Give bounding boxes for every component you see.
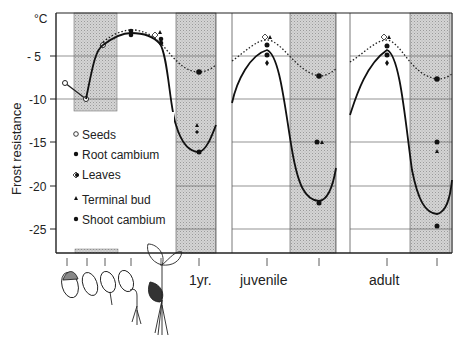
filled-circle-icon: [74, 217, 78, 221]
x-ticks: [67, 258, 437, 266]
seedling-illustrations: [59, 244, 182, 335]
legend-terminal-bud: Terminal bud: [82, 193, 151, 207]
seed-icon: [79, 270, 100, 297]
y-tick-label: -25: [29, 223, 47, 237]
x-label-juvenile: juvenile: [239, 272, 288, 288]
x-label-1yr: 1yr.: [189, 272, 212, 288]
x-label-adult: adult: [369, 272, 399, 288]
y-unit-label: °C: [34, 12, 48, 26]
legend-shoot-cambium: Shoot cambium: [82, 213, 165, 227]
frost-resistance-chart: °C - 5 -10 -15 -20 -25 Frost resistance: [0, 0, 471, 350]
y-axis-title: Frost resistance: [9, 103, 24, 195]
legend-root-cambium: Root cambium: [82, 148, 159, 162]
sprouting-seed-icon: [116, 268, 137, 293]
y-tick-label: -15: [29, 136, 47, 150]
y-tick-label: -20: [29, 180, 47, 194]
open-circle-icon: [74, 132, 79, 137]
germinating-seed-icon: [98, 269, 119, 294]
y-tick-label: -10: [29, 93, 47, 107]
y-tick-label: - 5: [27, 50, 41, 64]
y-ticks: [50, 56, 56, 229]
legend: Seeds Root cambium Leaves Terminal bud S…: [70, 112, 174, 247]
seedling-icon: [148, 282, 162, 302]
filled-circle-icon: [74, 152, 78, 156]
legend-seeds: Seeds: [82, 128, 116, 142]
leaf-icon: [162, 252, 182, 265]
legend-leaves: Leaves: [82, 168, 121, 182]
